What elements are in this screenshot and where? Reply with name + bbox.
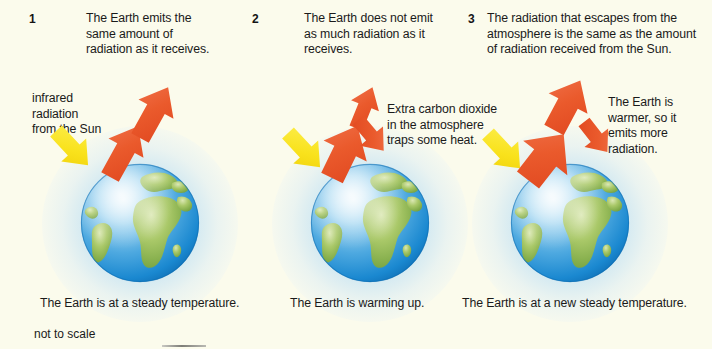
panel-1-incoming-label: infrared radiation from the Sun (32, 91, 104, 138)
panel-3-caption: The Earth is at a new steady temperature… (462, 296, 687, 311)
panel-number-1: 1 (29, 12, 36, 26)
panel-3-side-label: The Earth is warmer, so it emits more ra… (608, 95, 704, 157)
escaping-radiation-arrow-panel-3 (535, 70, 600, 140)
panel-number-2: 2 (252, 12, 259, 26)
escaping-radiation-arrow-panel-2 (342, 82, 386, 134)
bottom-rule (162, 345, 206, 347)
greenhouse-effect-diagram: 1 The Earth emits the same amount of rad… (0, 0, 712, 349)
earth-globe-panel-1 (80, 163, 200, 283)
panel-1-heading: The Earth emits the same amount of radia… (86, 11, 216, 58)
panel-1-caption: The Earth is at a steady temperature. (40, 296, 239, 311)
earth-globe-panel-3 (510, 163, 630, 283)
panel-number-3: 3 (468, 12, 475, 26)
outgoing-radiation-arrow-upper-panel-1 (123, 78, 186, 148)
earth-globe-panel-2 (310, 163, 430, 283)
incoming-solar-arrow-panel-2 (276, 121, 333, 179)
panel-2-heading: The Earth does not emit as much radiatio… (304, 11, 437, 58)
not-to-scale-note: not to scale (34, 327, 95, 341)
panel-3-heading: The radiation that escapes from the atmo… (487, 11, 697, 58)
panel-2-caption: The Earth is warming up. (290, 296, 424, 311)
panel-2-side-label: Extra carbon dioxide in the atmosphere t… (387, 102, 499, 149)
